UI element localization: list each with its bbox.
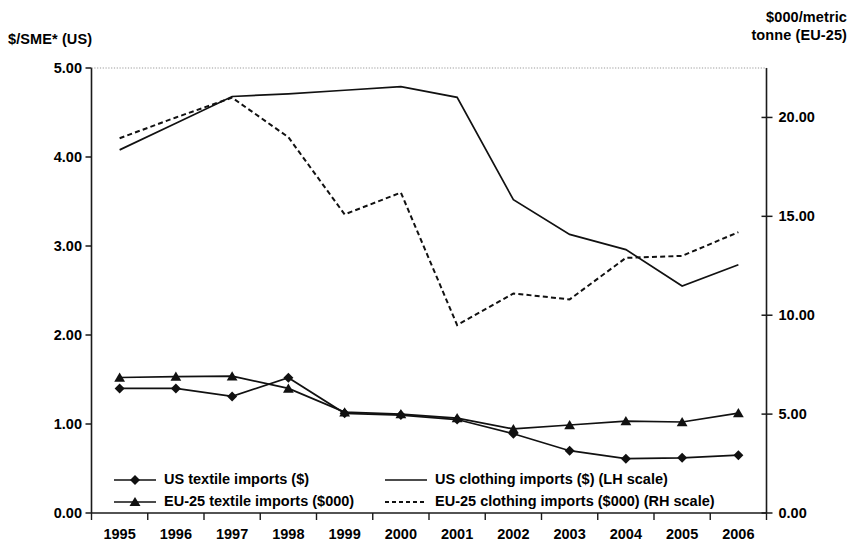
x-axis-label-0: 1995 bbox=[90, 527, 150, 541]
marker-diamond-0-1 bbox=[171, 383, 181, 393]
x-axis-label-6: 2001 bbox=[427, 527, 487, 541]
marker-diamond-0-2 bbox=[227, 391, 237, 401]
legend-label-2: US clothing imports ($) (LH scale) bbox=[435, 472, 668, 487]
x-axis-label-8: 2003 bbox=[540, 527, 600, 541]
marker-diamond-0-0 bbox=[115, 383, 125, 393]
y-axis-left-label-0: 0.00 bbox=[18, 506, 82, 520]
legend-swatch-dotted bbox=[383, 495, 429, 509]
y-axis-right-label-2: 10.00 bbox=[779, 308, 849, 322]
legend-label-3: EU-25 clothing imports ($000) (RH scale) bbox=[435, 494, 715, 509]
x-axis-label-9: 2004 bbox=[596, 527, 656, 541]
y-axis-left-label-1: 1.00 bbox=[18, 417, 82, 431]
series-line-0 bbox=[120, 378, 739, 459]
x-axis-label-7: 2002 bbox=[483, 527, 543, 541]
legend-swatch-diamond bbox=[112, 473, 158, 487]
y-axis-right-label-0: 0.00 bbox=[779, 506, 849, 520]
x-axis-label-5: 2000 bbox=[371, 527, 431, 541]
legend-item-1[interactable]: EU-25 textile imports ($000) bbox=[112, 494, 354, 509]
x-axis-label-4: 1999 bbox=[315, 527, 375, 541]
marker-diamond-0-9 bbox=[621, 454, 631, 464]
y-axis-right-label-1: 5.00 bbox=[779, 407, 849, 421]
marker-diamond-0-10 bbox=[677, 453, 687, 463]
y-axis-left-label-3: 3.00 bbox=[18, 239, 82, 253]
x-axis-label-10: 2005 bbox=[652, 527, 712, 541]
x-axis-label-3: 1998 bbox=[258, 527, 318, 541]
marker-diamond-0-3 bbox=[283, 373, 293, 383]
legend-swatch-solid bbox=[383, 473, 429, 487]
series-line-1 bbox=[120, 376, 739, 429]
legend-item-0[interactable]: US textile imports ($) bbox=[112, 472, 309, 487]
y-axis-right-label-3: 15.00 bbox=[779, 209, 849, 223]
y-axis-left-label-2: 2.00 bbox=[18, 328, 82, 342]
chart-figure: $/SME* (US) $000/metrictonne (EU-25) 0.0… bbox=[0, 0, 853, 558]
x-axis-label-2: 1997 bbox=[202, 527, 262, 541]
marker-diamond-0-11 bbox=[733, 450, 743, 460]
legend-label-1: EU-25 textile imports ($000) bbox=[164, 494, 354, 509]
legend-item-3[interactable]: EU-25 clothing imports ($000) (RH scale) bbox=[383, 494, 715, 509]
legend-item-2[interactable]: US clothing imports ($) (LH scale) bbox=[383, 472, 668, 487]
x-axis-label-11: 2006 bbox=[708, 527, 768, 541]
legend-label-0: US textile imports ($) bbox=[164, 472, 309, 487]
marker-triangle-1-11 bbox=[733, 408, 744, 417]
y-axis-left-label-4: 4.00 bbox=[18, 150, 82, 164]
y-axis-right-label-4: 20.00 bbox=[779, 110, 849, 124]
x-axis-label-1: 1996 bbox=[146, 527, 206, 541]
series-line-3 bbox=[120, 98, 739, 325]
series-line-2 bbox=[120, 87, 739, 286]
legend-swatch-triangle bbox=[112, 495, 158, 509]
y-axis-left-label-5: 5.00 bbox=[18, 61, 82, 75]
marker-diamond-0-8 bbox=[565, 446, 575, 456]
